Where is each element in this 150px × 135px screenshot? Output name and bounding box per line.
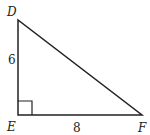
side-label-de: 6 [8,53,16,67]
vertex-label-d: D [6,5,17,19]
vertex-label-e: E [6,120,16,134]
side-label-ef: 8 [73,121,81,135]
vertex-label-f: F [137,121,147,135]
triangle-diagram: D E F 6 8 [0,0,150,135]
right-angle-marker [18,101,32,115]
triangle-def [18,20,142,115]
